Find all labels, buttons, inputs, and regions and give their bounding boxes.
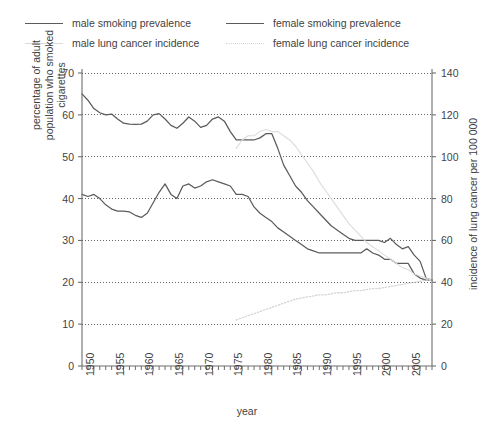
series-lines: [82, 94, 432, 320]
svg-text:0: 0: [68, 360, 74, 372]
gridlines: [82, 73, 432, 324]
series-line-female-lung-cancer-incidence: [236, 280, 432, 320]
svg-text:140: 140: [441, 67, 459, 79]
series-line-male-lung-cancer-incidence: [236, 130, 432, 281]
svg-text:2000: 2000: [380, 352, 392, 376]
x-axis-title: year: [0, 405, 494, 417]
svg-text:1970: 1970: [203, 352, 215, 376]
svg-text:60: 60: [441, 234, 453, 246]
svg-text:80: 80: [441, 193, 453, 205]
svg-text:1965: 1965: [173, 352, 185, 376]
series-line-male-smoking-prevalence: [82, 94, 432, 280]
svg-text:40: 40: [441, 276, 453, 288]
chart-page: male smoking prevalence male lung cancer…: [0, 0, 494, 430]
chart-svg: 0102030405060700204060801001201401950195…: [0, 0, 494, 430]
svg-text:2005: 2005: [410, 352, 422, 376]
svg-text:1950: 1950: [84, 352, 96, 376]
axis-lines-and-ticks: [78, 69, 436, 371]
svg-text:1975: 1975: [232, 352, 244, 376]
svg-text:50: 50: [62, 151, 74, 163]
svg-text:120: 120: [441, 109, 459, 121]
svg-text:20: 20: [62, 276, 74, 288]
plot-area: 0102030405060700204060801001201401950195…: [0, 0, 494, 430]
y-axis-left-title: percentage of adult population who smoke…: [30, 20, 68, 150]
svg-text:1980: 1980: [262, 352, 274, 376]
svg-text:1955: 1955: [114, 352, 126, 376]
svg-text:1960: 1960: [143, 352, 155, 376]
series-line-female-smoking-prevalence: [82, 180, 432, 280]
svg-text:1995: 1995: [351, 352, 363, 376]
svg-text:1985: 1985: [291, 352, 303, 376]
y-axis-right-title: incidence of lung cancer per 100 000: [467, 110, 479, 290]
svg-text:40: 40: [62, 193, 74, 205]
svg-text:10: 10: [62, 318, 74, 330]
svg-text:1990: 1990: [321, 352, 333, 376]
svg-text:100: 100: [441, 151, 459, 163]
svg-text:0: 0: [441, 360, 447, 372]
axis-tick-labels: 0102030405060700204060801001201401950195…: [62, 67, 458, 376]
svg-text:20: 20: [441, 318, 453, 330]
svg-text:30: 30: [62, 234, 74, 246]
